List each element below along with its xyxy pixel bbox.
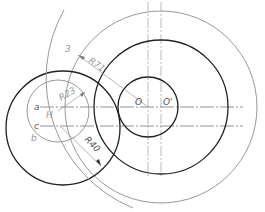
left-circle-large <box>6 71 120 185</box>
arrow-r40 <box>96 159 101 166</box>
label-3: 3 <box>65 44 71 54</box>
label-a: a <box>34 102 40 112</box>
label-b: b <box>31 133 37 143</box>
label-h: H <box>46 110 53 120</box>
label-r23: R23 <box>57 85 78 103</box>
label-c: c <box>34 121 39 131</box>
label-o: O <box>135 97 142 107</box>
label-o-prime: O' <box>163 97 173 107</box>
drawing-canvas: O O' a c H b 3 R71 R23 R40 <box>0 0 265 212</box>
